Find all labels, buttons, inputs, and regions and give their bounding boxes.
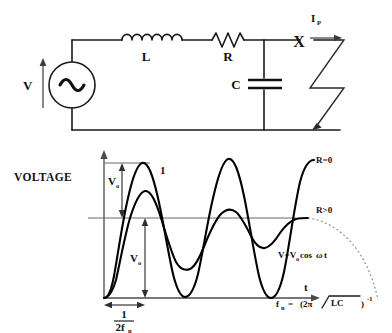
- drive-eq-cos: cos: [300, 250, 312, 260]
- figure-canvas: V L R C X I P: [0, 0, 392, 333]
- resonance-exponent: -1: [367, 295, 372, 302]
- resonance-close-paren: ): [361, 299, 364, 309]
- resonance-open-paren: (2π: [300, 299, 312, 309]
- inductor-label: L: [142, 49, 151, 64]
- legend-damped-label: R>0: [316, 205, 333, 215]
- half-period-denominator: 2f: [115, 321, 125, 333]
- capacitor-label: C: [231, 77, 240, 92]
- figure-root: V L R C X I P: [0, 0, 392, 333]
- legend-undamped-label: R=0: [316, 155, 333, 165]
- curve-marker-label: 1: [160, 164, 166, 176]
- amplitude-upper-sub: o: [116, 182, 119, 189]
- drive-eq-lhs: V=V: [278, 250, 297, 260]
- resonance-lhs: f: [276, 299, 280, 309]
- half-period-numerator: 1: [121, 308, 127, 320]
- resistor-symbol: [212, 33, 244, 47]
- resistor-label: R: [223, 49, 233, 64]
- source-voltage-label: V: [23, 78, 33, 93]
- drive-eq-t: t: [324, 250, 327, 260]
- resonance-radicand: LC: [331, 298, 344, 308]
- resonance-equals: =: [288, 299, 293, 309]
- drive-eq-omega: ω: [316, 250, 323, 260]
- y-axis-label: VOLTAGE: [14, 171, 72, 183]
- y-axis: [100, 150, 107, 298]
- node-x-label: X: [293, 33, 305, 50]
- lightning-bolt-icon: [310, 40, 344, 130]
- amplitude-lower-label: V: [130, 252, 138, 264]
- waveform-plot: VOLTAGE t V o V o: [14, 150, 378, 333]
- curve-damped: [104, 191, 308, 298]
- half-period-denominator-sub: n: [128, 327, 132, 333]
- source-voltage-arrow: [40, 58, 47, 108]
- current-label: I: [311, 12, 315, 24]
- amplitude-upper-label: V: [108, 175, 116, 187]
- x-axis-label: t: [304, 281, 308, 293]
- current-subscript: P: [317, 19, 321, 26]
- ac-source-icon: [49, 62, 95, 108]
- resonance-lhs-sub: n: [281, 304, 285, 311]
- amplitude-lower-sub: o: [138, 259, 141, 266]
- amplitude-upper-dim: [119, 163, 125, 218]
- drive-eq-sub: o: [296, 255, 299, 262]
- amplitude-lower-dim: [142, 218, 148, 298]
- inductor-symbol: [122, 34, 182, 40]
- circuit-diagram: V L R C X I P: [23, 12, 344, 130]
